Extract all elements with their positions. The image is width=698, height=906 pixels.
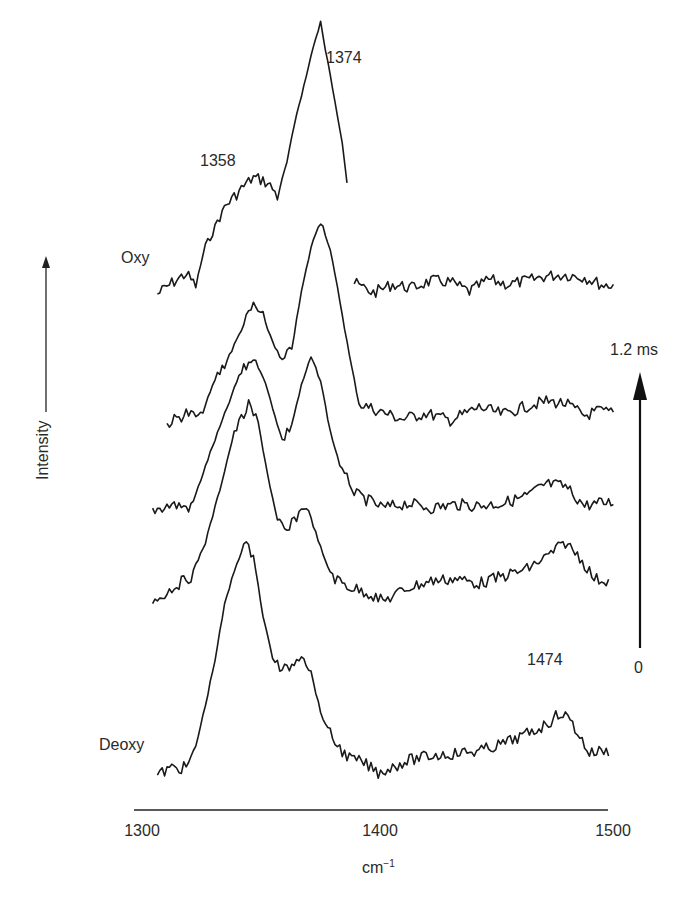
time-end-label: 1.2 ms [610,341,658,359]
x-axis-label: cm−1 [362,858,395,877]
spectrum-trace-t2 [167,224,613,427]
spectrum-trace-oxy [157,21,347,294]
trace-label-oxy: Oxy [121,249,149,267]
trace-label-deoxy: Deoxy [99,736,144,754]
peak-label-1374: 1374 [326,49,362,67]
time-start-label: 0 [634,659,643,677]
y-axis-label: Intensity [34,420,52,480]
x-unit: cm [362,859,383,876]
time-arrow-icon [633,372,647,648]
peak-label-1358: 1358 [200,152,236,170]
spectrum-trace-oxy [354,271,613,297]
peak-label-1474: 1474 [527,651,563,669]
spectra-plot [0,0,698,906]
spectrum-trace-t3 [153,357,614,514]
x-tick-1500: 1500 [595,822,631,840]
intensity-arrow-icon [42,256,50,412]
x-unit-exponent: −1 [383,858,394,869]
x-tick-1300: 1300 [124,822,160,840]
x-tick-1400: 1400 [362,822,398,840]
